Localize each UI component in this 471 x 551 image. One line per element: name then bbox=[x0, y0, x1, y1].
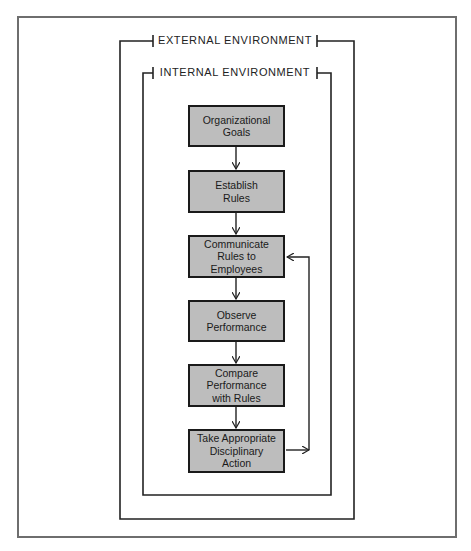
feedback-loop bbox=[286, 257, 309, 450]
step-compare-performance: Compare Performance with Rules bbox=[188, 364, 285, 407]
step-label: Communicate Rules to Employees bbox=[204, 238, 269, 276]
internal-environment-label: INTERNAL ENVIRONMENT bbox=[155, 66, 315, 78]
step-establish-rules: Establish Rules bbox=[188, 170, 285, 213]
step-organizational-goals: Organizational Goals bbox=[188, 105, 285, 147]
step-observe-performance: Observe Performance bbox=[188, 300, 285, 342]
step-label: Compare Performance with Rules bbox=[206, 367, 266, 405]
step-label: Organizational Goals bbox=[203, 114, 271, 139]
step-communicate-rules: Communicate Rules to Employees bbox=[188, 235, 285, 278]
step-label: Observe Performance bbox=[206, 309, 266, 334]
step-disciplinary-action: Take Appropriate Disciplinary Action bbox=[188, 429, 285, 473]
step-label: Establish Rules bbox=[215, 179, 258, 204]
step-label: Take Appropriate Disciplinary Action bbox=[197, 432, 276, 470]
diagram-canvas: EXTERNAL ENVIRONMENT INTERNAL ENVIRONMEN… bbox=[0, 0, 471, 551]
external-environment-label: EXTERNAL ENVIRONMENT bbox=[155, 34, 315, 46]
